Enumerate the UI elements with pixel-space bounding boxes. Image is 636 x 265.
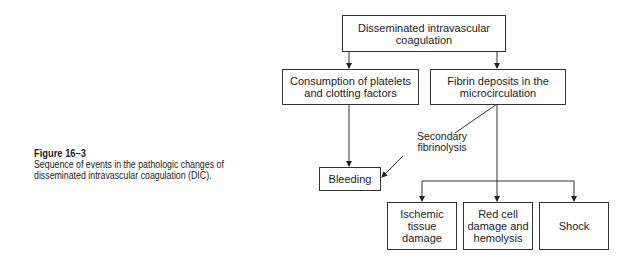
node-bleeding: Bleeding — [319, 167, 381, 191]
node-redcell: Red cell damage and hemolysis — [463, 202, 533, 250]
node-dic: Disseminated intravascular coagulation — [342, 15, 506, 52]
node-consumption: Consumption of platelets and clotting fa… — [282, 69, 419, 105]
node-fibrin: Fibrin deposits in the microcirculation — [430, 69, 566, 105]
edge-label-secondary-fibrinolysis: Secondary fibrinolysis — [406, 131, 478, 153]
node-ischemic: Ischemic tissue damage — [387, 202, 457, 250]
node-shock: Shock — [539, 202, 609, 250]
